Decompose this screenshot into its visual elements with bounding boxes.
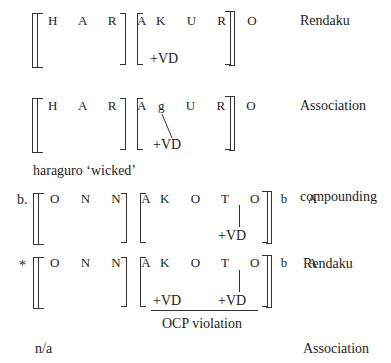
ungrammatical-marker: * [19, 259, 26, 273]
row-label: Association [300, 99, 366, 113]
association-line [239, 270, 240, 292]
vd-feature-2: +VD [218, 294, 246, 308]
close-bracket [120, 13, 126, 65]
ocp-underline [151, 310, 258, 311]
final-label: Association [303, 342, 369, 356]
inner-left-bracket [37, 13, 43, 68]
right-segments: K U R O [156, 14, 266, 27]
vd-feature: +VD [150, 52, 178, 66]
outer-right-bracket [229, 11, 235, 66]
inner-left-bracket [38, 193, 44, 245]
inner-left-bracket [37, 98, 43, 153]
association-line [239, 205, 240, 227]
outer-right-bracket [266, 255, 272, 308]
row-label: Rendaku [300, 14, 350, 28]
vd-feature: +VD [153, 138, 181, 152]
outer-right-bracket [266, 191, 272, 244]
open-bracket [137, 13, 143, 65]
open-bracket [140, 257, 146, 307]
close-bracket [121, 193, 127, 243]
example-prefix: b. [17, 193, 28, 207]
vd-feature: +VD [218, 229, 246, 243]
close-bracket [121, 257, 127, 307]
open-bracket [140, 193, 146, 243]
close-bracket [120, 98, 126, 150]
right-segments: K O T O b A [160, 256, 326, 269]
row-label: compounding [300, 190, 377, 204]
ocp-note: OCP violation [162, 317, 242, 331]
outer-right-bracket [229, 96, 235, 151]
inner-left-bracket [38, 257, 44, 309]
na-text: n/a [35, 342, 52, 356]
open-bracket [137, 98, 143, 150]
vd-feature-1: +VD [153, 294, 181, 308]
row-label: Rendaku [303, 257, 353, 271]
gloss: haraguro ‘wicked’ [33, 164, 136, 178]
